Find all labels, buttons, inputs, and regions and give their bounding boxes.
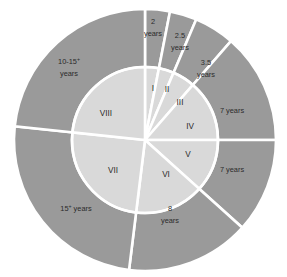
outer-label-iv: 7 years	[220, 106, 245, 115]
pie-chart-root: 2years2.5years3.5years7 years7 years8yea…	[0, 0, 287, 277]
inner-label-vii: VII	[108, 166, 118, 175]
inner-label-iv: IV	[186, 122, 194, 131]
outer-label-vii: 15+ years	[60, 203, 92, 213]
inner-label-iii: III	[177, 98, 184, 107]
inner-label-viii: VIII	[100, 109, 112, 118]
concentric-pie-chart: 2years2.5years3.5years7 years7 years8yea…	[0, 0, 287, 277]
inner-label-i: I	[152, 84, 154, 93]
inner-label-vi: VI	[162, 170, 170, 179]
inner-label-v: V	[185, 150, 191, 159]
inner-label-ii: II	[165, 85, 170, 94]
outer-label-v: 7 years	[220, 165, 245, 174]
